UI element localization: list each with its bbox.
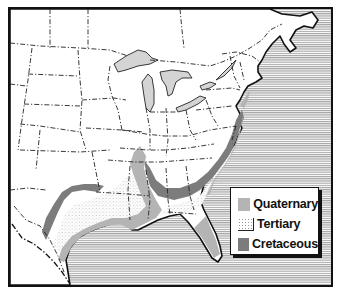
legend: Quaternary Tertiary Cretaceous: [230, 187, 319, 255]
cretaceous-swatch-icon: [238, 238, 249, 251]
legend-item-quaternary: Quaternary: [238, 194, 318, 214]
legend-label: Quaternary: [253, 197, 318, 211]
quaternary-swatch-icon: [238, 198, 250, 211]
legend-item-tertiary: Tertiary: [238, 214, 318, 234]
legend-label: Tertiary: [257, 217, 300, 231]
legend-item-cretaceous: Cretaceous: [238, 234, 318, 254]
tertiary-swatch-icon: [238, 218, 254, 231]
legend-label: Cretaceous: [252, 237, 318, 251]
